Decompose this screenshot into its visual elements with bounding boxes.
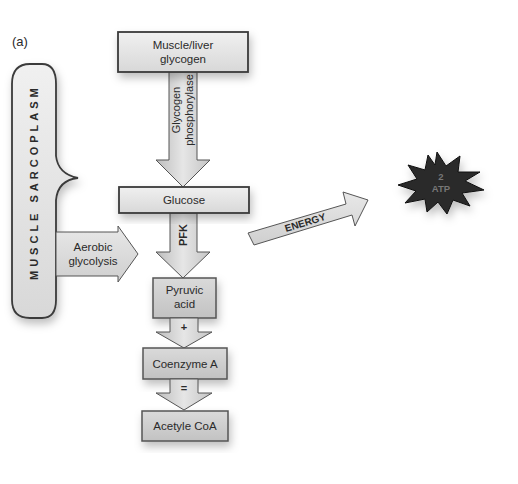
svg-text:Pyruvic: Pyruvic — [166, 284, 204, 296]
glycogen-phosphorylase-arrow: Glycogen phosphorylase — [156, 72, 210, 187]
diagram-canvas: (a) MUSCLE SARCOPLASM Aerobic glycolysis… — [0, 0, 518, 484]
aerobic-glycolysis-arrow: Aerobic glycolysis — [56, 226, 138, 282]
svg-text:Coenzyme A: Coenzyme A — [152, 358, 218, 370]
svg-text:Aerobic: Aerobic — [74, 241, 113, 253]
svg-text:Muscle/liver: Muscle/liver — [153, 39, 214, 51]
atp-label: ATP — [432, 183, 451, 194]
svg-text:PFK: PFK — [177, 224, 189, 246]
muscle-sarcoplasm-container — [12, 64, 78, 318]
svg-text:glycolysis: glycolysis — [68, 255, 117, 267]
svg-text:+: + — [181, 321, 187, 333]
svg-text:phosphorylase: phosphorylase — [183, 74, 195, 146]
muscle-sarcoplasm-label: MUSCLE SARCOPLASM — [28, 84, 40, 280]
equals-arrow: = — [156, 379, 212, 410]
energy-arrow: ENERGY — [248, 192, 368, 245]
atp-count: 2 — [438, 171, 443, 182]
svg-text:ENERGY: ENERGY — [283, 211, 327, 234]
panel-label: (a) — [12, 34, 28, 49]
svg-text:Acetyle CoA: Acetyle CoA — [153, 420, 217, 432]
svg-text:Glucose: Glucose — [163, 194, 205, 206]
node-glycogen — [118, 32, 248, 72]
svg-text:Glycogen: Glycogen — [170, 87, 182, 133]
pfk-arrow: PFK — [156, 213, 210, 278]
svg-text:acid: acid — [174, 298, 195, 310]
plus-arrow: + — [156, 318, 212, 348]
svg-text:glycogen: glycogen — [160, 53, 206, 65]
svg-text:=: = — [181, 382, 187, 394]
